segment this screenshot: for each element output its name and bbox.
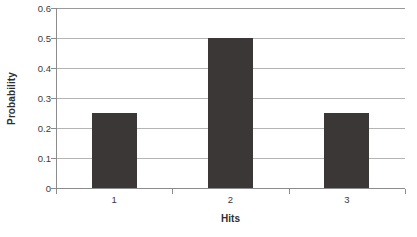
x-axis-tick-mark — [56, 189, 57, 194]
y-axis-tick-mark — [51, 38, 56, 39]
y-axis-tick-mark — [51, 8, 56, 9]
y-axis-line — [56, 8, 57, 189]
x-axis-tick-mark — [405, 189, 406, 194]
x-axis-tick-label: 3 — [344, 194, 349, 205]
y-axis-tick-labels: 00.10.20.30.40.50.6 — [18, 8, 51, 188]
y-axis-tick-mark — [51, 128, 56, 129]
bar — [92, 113, 137, 188]
bar — [324, 113, 369, 188]
x-axis-title: Hits — [56, 213, 405, 224]
y-axis-title-text: Probability — [6, 72, 17, 125]
bar — [208, 38, 253, 188]
x-axis-tick-label: 1 — [112, 194, 117, 205]
plot-area — [56, 8, 405, 188]
y-axis-tick-label: 0.2 — [38, 123, 51, 134]
y-axis-tick-label: 0.3 — [38, 93, 51, 104]
bars-layer — [56, 8, 405, 188]
y-axis-tick-label: 0.4 — [38, 63, 51, 74]
x-axis-tick-mark — [289, 189, 290, 194]
y-axis-tick-mark — [51, 68, 56, 69]
x-axis-tick-label: 2 — [228, 194, 233, 205]
bar-chart: Probability 00.10.20.30.40.50.6 Hits 123 — [0, 0, 417, 237]
x-axis-tick-mark — [172, 189, 173, 194]
y-axis-tick-mark — [51, 158, 56, 159]
y-axis-tick-label: 0.5 — [38, 33, 51, 44]
y-axis-tick-label: 0.6 — [38, 3, 51, 14]
y-axis-tick-label: 0.1 — [38, 153, 51, 164]
gridline — [56, 188, 405, 189]
y-axis-tick-mark — [51, 98, 56, 99]
